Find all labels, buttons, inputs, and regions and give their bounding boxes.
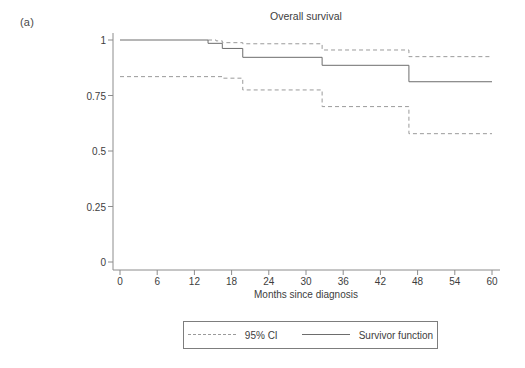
legend-swatch-ci: [188, 334, 236, 336]
plot-area: [0, 0, 525, 368]
y-tick-marks: [108, 40, 113, 262]
legend-swatch-survivor: [302, 334, 350, 336]
legend-label-ci: 95% CI: [245, 330, 278, 341]
survival-figure: (a) Overall survival 1 0.75 0.5 0.25 0 0…: [0, 0, 525, 368]
x-tick-marks: [120, 270, 492, 275]
series-ci-upper: [208, 40, 492, 57]
legend-label-survivor: Survivor function: [359, 330, 433, 341]
series-ci-lower: [120, 77, 492, 134]
legend: 95% CI Survivor function: [183, 321, 438, 349]
series-survivor-function: [120, 40, 492, 82]
